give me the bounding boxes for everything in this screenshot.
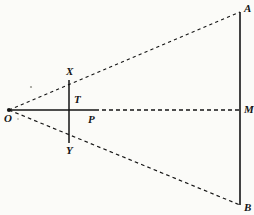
figure-canvas: OXTYPAMB (0, 0, 254, 215)
point-label-p: P (88, 113, 95, 125)
point-label-m: M (243, 103, 254, 115)
point-label-o: O (4, 112, 12, 124)
paper-speck (17, 118, 19, 120)
figure-background (0, 0, 254, 215)
geometry-diagram: OXTYPAMB (0, 0, 254, 215)
paper-speck (30, 86, 32, 88)
point-label-x: X (65, 65, 74, 77)
point-label-a: A (243, 2, 251, 14)
point-label-b: B (243, 201, 251, 213)
